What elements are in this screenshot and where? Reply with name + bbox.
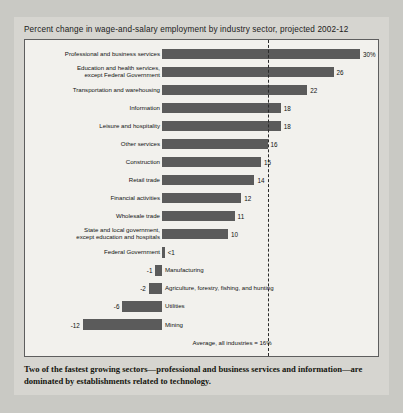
bar xyxy=(162,67,334,77)
value-label: 18 xyxy=(284,122,291,129)
bar-row: Information18 xyxy=(25,101,378,115)
bar-row: Utilities-6Utilities xyxy=(25,300,378,314)
bar xyxy=(162,229,228,239)
bar xyxy=(155,265,162,275)
bar-row: Federal Government<1 xyxy=(25,246,378,260)
category-label: Mining xyxy=(165,321,325,328)
bar xyxy=(162,103,281,113)
category-label: Financial activities xyxy=(35,195,160,202)
category-label: Education and health services, except Fe… xyxy=(35,65,160,79)
bar xyxy=(162,157,261,167)
bar-row: Professional and business services30% xyxy=(25,47,378,61)
average-annotation: Average, all industries = 16% xyxy=(193,339,272,346)
bar xyxy=(149,283,162,293)
category-label: Manufacturing xyxy=(165,267,325,274)
value-label: 14 xyxy=(257,177,264,184)
category-label: Professional and business services xyxy=(35,50,160,57)
bars-container: Professional and business services30%Edu… xyxy=(25,40,378,356)
category-label: Leisure and hospitality xyxy=(35,123,160,130)
bar xyxy=(162,85,307,95)
category-label: Wholesale trade xyxy=(35,213,160,220)
value-label: -1 xyxy=(147,267,153,274)
bar-row: Financial activities12 xyxy=(25,191,378,205)
bar-row: Leisure and hospitality18 xyxy=(25,119,378,133)
value-label: -6 xyxy=(114,303,120,310)
value-label: -2 xyxy=(140,285,146,292)
value-label: 26 xyxy=(337,68,344,75)
bar-row: Wholesale trade11 xyxy=(25,209,378,223)
bar xyxy=(162,175,254,185)
bar-row: Construction15 xyxy=(25,155,378,169)
category-label: Other services xyxy=(35,141,160,148)
bar xyxy=(162,247,165,257)
bar xyxy=(162,49,360,59)
bar-row: Agriculture, forestry, fishing, and hunt… xyxy=(25,282,378,296)
category-label: Utilities xyxy=(165,303,325,310)
category-label: Construction xyxy=(35,159,160,166)
value-label: 12 xyxy=(244,195,251,202)
value-label: 10 xyxy=(231,231,238,238)
value-label: 11 xyxy=(238,213,245,220)
bar xyxy=(83,319,162,329)
bar xyxy=(162,211,235,221)
category-label: Agriculture, forestry, fishing, and hunt… xyxy=(165,285,325,292)
value-label: 22 xyxy=(310,86,317,93)
chart-title: Percent change in wage-and-salary employ… xyxy=(24,25,380,34)
bar xyxy=(162,139,268,149)
bar xyxy=(122,301,162,311)
category-label: Information xyxy=(35,105,160,112)
bar-row: Transportation and warehousing22 xyxy=(25,83,378,97)
value-label: 16 xyxy=(271,141,278,148)
bar-row: Other services16 xyxy=(25,137,378,151)
bar-row: Education and health services, except Fe… xyxy=(25,65,378,79)
category-label: Transportation and warehousing xyxy=(35,86,160,93)
bar xyxy=(162,121,281,131)
figure-panel: Percent change in wage-and-salary employ… xyxy=(14,17,389,395)
average-reference-line xyxy=(268,40,269,356)
figure-caption: Two of the fastest growing sectors—profe… xyxy=(24,364,380,387)
value-label: <1 xyxy=(168,249,175,256)
bar xyxy=(162,193,241,203)
plot-area: Professional and business services30%Edu… xyxy=(24,39,379,357)
value-label: 18 xyxy=(284,104,291,111)
bar-row: Retail trade14 xyxy=(25,173,378,187)
category-label: Federal Government xyxy=(35,249,160,256)
bar-row: State and local government, except educa… xyxy=(25,228,378,242)
bar-row: Manufacturing-1Manufacturing xyxy=(25,264,378,278)
value-label: -12 xyxy=(71,321,80,328)
value-label: 30% xyxy=(363,50,376,57)
category-label: Retail trade xyxy=(35,177,160,184)
bar-row: Mining-12Mining xyxy=(25,318,378,332)
category-label: State and local government, except educa… xyxy=(35,228,160,242)
